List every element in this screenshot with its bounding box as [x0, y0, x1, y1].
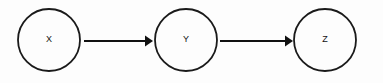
node-y[interactable]: Y — [155, 9, 217, 71]
edge-y-to-z[interactable] — [220, 36, 293, 47]
causal-chain-diagram: X Y Z — [0, 0, 383, 83]
edge-x-to-y-arrowhead-icon — [145, 36, 153, 47]
diagram-canvas: X Y Z — [0, 0, 383, 83]
node-x-label: X — [46, 34, 52, 44]
edge-y-to-z-arrowhead-icon — [285, 36, 293, 47]
edge-x-to-y[interactable] — [84, 36, 153, 47]
node-z[interactable]: Z — [294, 9, 356, 71]
node-x[interactable]: X — [18, 9, 80, 71]
node-z-label: Z — [322, 34, 328, 44]
node-y-label: Y — [183, 34, 189, 44]
